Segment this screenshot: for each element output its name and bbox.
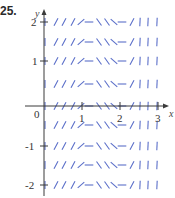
- origin-label: 0: [34, 108, 40, 120]
- slope-segment: [62, 18, 66, 26]
- slope-segment: [78, 182, 85, 188]
- slope-segment: [62, 38, 66, 46]
- slope-segment: [105, 58, 110, 65]
- slope-segment: [71, 38, 75, 46]
- slope-segment: [54, 142, 58, 150]
- slope-segment: [78, 58, 85, 64]
- slope-segment: [62, 121, 66, 129]
- slope-segment: [54, 18, 58, 26]
- slope-segment: [105, 162, 110, 169]
- slope-segments: [45, 18, 157, 190]
- slope-segment: [105, 19, 110, 26]
- slope-segment: [97, 81, 102, 88]
- slope-segment: [97, 39, 102, 46]
- y-tick-label-1: 1: [32, 55, 38, 67]
- slope-segment: [54, 38, 58, 46]
- slope-segment: [105, 143, 110, 150]
- slope-segment: [97, 143, 102, 150]
- slope-segment: [111, 162, 118, 168]
- slope-segment: [78, 143, 85, 149]
- slope-segment: [130, 57, 134, 65]
- slope-segment: [71, 142, 75, 150]
- slope-segment: [105, 81, 110, 88]
- slope-segment: [97, 58, 102, 65]
- slope-segment: [78, 162, 85, 168]
- slope-segment: [130, 161, 134, 169]
- slope-segment: [105, 182, 110, 189]
- x-axis-label: x: [168, 108, 174, 119]
- y-tick-label-neg2: -2: [25, 179, 34, 191]
- slope-segment: [130, 121, 134, 129]
- slope-segment: [97, 19, 102, 26]
- slope-segment: [105, 39, 110, 46]
- slope-segment: [71, 121, 75, 129]
- slope-segment: [62, 161, 66, 169]
- slope-segment: [97, 182, 102, 189]
- slope-segment: [111, 143, 118, 149]
- slope-segment: [130, 181, 134, 189]
- slope-segment: [97, 162, 102, 169]
- x-tick-label-2: 2: [117, 112, 123, 124]
- slope-segment: [111, 81, 118, 87]
- slope-segment: [78, 19, 85, 25]
- slope-segment: [111, 58, 118, 64]
- slope-segment: [62, 57, 66, 65]
- slope-segment: [54, 121, 58, 129]
- slope-segment: [130, 142, 134, 150]
- slope-segment: [62, 181, 66, 189]
- slope-segment: [71, 57, 75, 65]
- slope-segment: [105, 122, 110, 129]
- x-tick-label-1: 1: [79, 112, 85, 124]
- slope-segment: [130, 38, 134, 46]
- slope-segment: [54, 80, 58, 88]
- slope-segment: [130, 80, 134, 88]
- slope-segment: [130, 18, 134, 26]
- y-tick-label-neg1: -1: [25, 140, 34, 152]
- slope-segment: [97, 122, 102, 129]
- slope-segment: [62, 142, 66, 150]
- y-axis-arrow-icon: [42, 9, 47, 15]
- slope-segment: [78, 39, 85, 45]
- slope-segment: [111, 19, 118, 25]
- slope-segment: [71, 181, 75, 189]
- slope-segment: [78, 81, 85, 87]
- y-tick-label-2: 2: [31, 16, 37, 28]
- slope-field-plot: y x 0 1 2 3 2 1 -1 -2: [0, 0, 175, 198]
- slope-segment: [111, 39, 118, 45]
- slope-segment: [71, 18, 75, 26]
- slope-segment: [54, 161, 58, 169]
- slope-segment: [54, 57, 58, 65]
- slope-segment: [54, 181, 58, 189]
- slope-segment: [62, 80, 66, 88]
- slope-segment: [71, 80, 75, 88]
- slope-segment: [71, 161, 75, 169]
- slope-segment: [111, 182, 118, 188]
- x-tick-label-3: 3: [155, 112, 161, 124]
